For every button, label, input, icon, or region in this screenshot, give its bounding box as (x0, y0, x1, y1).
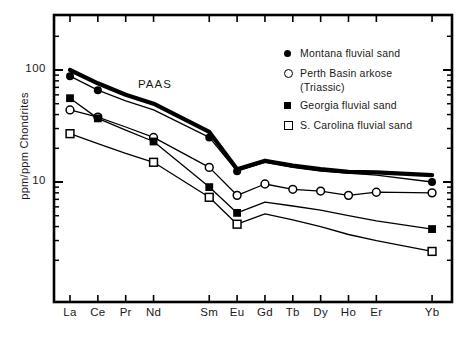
filled-square-icon (284, 99, 300, 112)
legend-item-perth-basin-arkose: Perth Basin arkose (284, 67, 464, 80)
legend-item-s-carolina-fluvial-sand: S. Carolina fluvial sand (284, 119, 464, 132)
x-tick-label: Ce (85, 306, 111, 318)
y-tick-label: 100 (12, 62, 46, 74)
open-circle-icon (284, 67, 300, 80)
x-tick-label: Eu (224, 306, 250, 318)
x-tick-label: Dy (308, 306, 334, 318)
legend-label: S. Carolina fluvial sand (300, 119, 412, 131)
legend: Montana fluvial sand Perth Basin arkose … (284, 47, 464, 139)
legend-label: Georgia fluvial sand (300, 99, 397, 111)
y-tick-label: 10 (12, 174, 46, 186)
y-axis-title: ppm/ppm Chondrites (18, 81, 30, 211)
legend-item-georgia-fluvial-sand: Georgia fluvial sand (284, 99, 464, 112)
x-tick-label: Ho (336, 306, 362, 318)
ree-chondrite-diagram: ppm/ppm Chondrites 10010 LaCePrNdSmEuGdT… (0, 0, 465, 339)
x-tick-label: La (57, 306, 83, 318)
x-tick-label: Yb (419, 306, 445, 318)
legend-item-montana-fluvial-sand: Montana fluvial sand (284, 47, 464, 60)
filled-circle-icon (284, 47, 300, 60)
legend-label: Perth Basin arkose (300, 67, 392, 79)
x-tick-label: Er (363, 306, 389, 318)
legend-sublabel-triassic: (Triassic) (300, 81, 464, 93)
x-tick-label: Nd (141, 306, 167, 318)
x-tick-label: Pr (113, 306, 139, 318)
paas-annotation: PAAS (138, 78, 172, 90)
open-square-icon (284, 119, 300, 132)
x-tick-label: Tb (280, 306, 306, 318)
x-tick-label: Gd (252, 306, 278, 318)
x-tick-label: Sm (196, 306, 222, 318)
legend-label: Montana fluvial sand (300, 47, 400, 59)
